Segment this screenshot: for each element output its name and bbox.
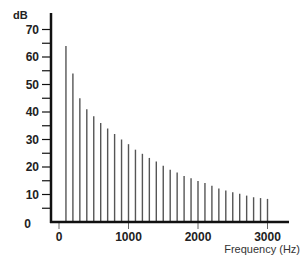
- y-tick-label: 70: [26, 23, 40, 37]
- x-tick-label: 3000: [254, 230, 281, 244]
- y-axis-ticks: 010203040506070: [24, 23, 51, 232]
- y-tick-label: 30: [26, 133, 40, 147]
- y-tick-label: 0: [24, 217, 31, 231]
- x-tick-label: 0: [56, 230, 63, 244]
- y-tick-label: 20: [26, 160, 40, 174]
- x-axis-label: Frequency (Hz): [224, 243, 300, 255]
- y-axis-label: dB: [13, 9, 28, 21]
- x-tick-label: 2000: [185, 230, 212, 244]
- bars: [66, 46, 268, 222]
- spectrum-chart: 010203040506070 0100020003000 dB Frequen…: [0, 0, 306, 271]
- y-tick-label: 60: [26, 50, 40, 64]
- y-tick-label: 50: [26, 78, 40, 92]
- y-tick-label: 10: [26, 188, 40, 202]
- x-tick-label: 1000: [115, 230, 142, 244]
- y-tick-label: 40: [26, 105, 40, 119]
- x-axis-ticks: 0100020003000: [56, 223, 282, 244]
